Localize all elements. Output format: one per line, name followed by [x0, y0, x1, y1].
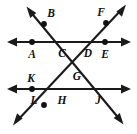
point-k	[29, 86, 35, 92]
point-a	[29, 39, 35, 45]
point-f	[103, 20, 109, 26]
figure-canvas	[0, 0, 137, 134]
label-d: D	[84, 48, 92, 60]
arrowhead-upper-left-icon	[7, 38, 17, 47]
arrowhead-lower-right-icon	[121, 85, 131, 94]
label-e: E	[101, 49, 109, 61]
label-l: L	[30, 95, 37, 107]
label-k: K	[27, 73, 35, 85]
label-f: F	[97, 7, 105, 19]
point-l	[41, 102, 47, 108]
arrowhead-upper-right-icon	[121, 38, 131, 47]
label-a: A	[28, 49, 36, 61]
label-c: C	[58, 48, 66, 60]
label-g: G	[73, 71, 81, 83]
arrowhead-lower-left-icon	[7, 85, 17, 94]
point-b	[41, 21, 47, 27]
geometry-figure: A B C D E F G H J K L	[0, 0, 137, 134]
label-h: H	[58, 95, 67, 107]
point-e	[102, 39, 108, 45]
label-j: J	[95, 95, 101, 107]
label-b: B	[47, 8, 55, 20]
